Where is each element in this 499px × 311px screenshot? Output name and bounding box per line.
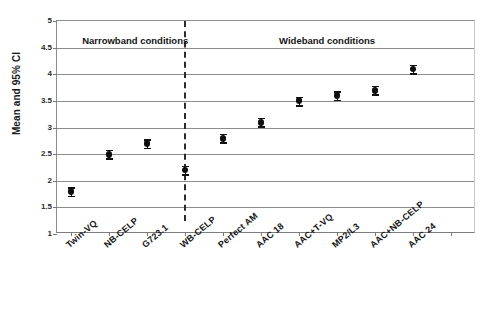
y-axis-tick-mark (53, 48, 57, 49)
y-axis-tick-mark (53, 21, 57, 22)
gridline (57, 181, 474, 182)
plot-area: 11.522.533.544.55 Narrowband conditionsW… (56, 20, 475, 233)
error-bar-cap-lower (372, 94, 380, 95)
y-axis-title: Mean and 95% CI (11, 34, 22, 154)
error-bar-cap-lower (106, 158, 114, 159)
data-point-marker (144, 140, 151, 147)
y-axis-tick-mark (53, 181, 57, 182)
y-axis-tick-mark (53, 101, 57, 102)
y-axis-tick-mark (53, 154, 57, 155)
data-point-marker (68, 188, 75, 195)
error-bar-cap-lower (182, 174, 190, 175)
y-axis-tick-label: 4.5 (26, 42, 57, 51)
gridline (57, 154, 474, 155)
gridline (57, 128, 474, 129)
chart-figure: Mean and 95% CI 11.522.533.544.55 Narrow… (0, 0, 499, 311)
y-axis-tick-label: 3 (26, 122, 57, 131)
y-axis-tick-label: 4 (26, 69, 57, 78)
data-point-marker (372, 87, 379, 94)
y-axis-tick-label: 2.5 (26, 149, 57, 158)
error-bar-cap-lower (144, 148, 152, 149)
y-axis-tick-mark (53, 128, 57, 129)
narrowband-region-label: Narrowband conditions (82, 35, 188, 46)
error-bar-cap-lower (68, 196, 76, 197)
x-axis-tick-mark (451, 232, 452, 236)
error-bar-cap-lower (258, 126, 266, 127)
y-axis-tick-mark (53, 74, 57, 75)
data-point-marker (296, 97, 303, 104)
y-axis-tick-label: 5 (26, 16, 57, 25)
error-bar-cap-lower (296, 105, 304, 106)
condition-divider-line (184, 21, 186, 221)
data-point-marker (220, 135, 227, 142)
data-point-marker (334, 92, 341, 99)
error-bar-cap-lower (220, 142, 228, 143)
data-point-marker (182, 167, 189, 174)
error-bar-cap-lower (410, 73, 418, 74)
y-axis-tick-mark (53, 207, 57, 208)
y-axis-tick-label: 1 (26, 229, 57, 238)
data-point-marker (410, 66, 417, 73)
gridline (57, 48, 474, 49)
error-bar-cap-lower (334, 100, 342, 101)
wideband-region-label: Wideband conditions (279, 35, 375, 46)
y-axis-tick-label: 1.5 (26, 202, 57, 211)
y-axis-tick-label: 2 (26, 175, 57, 184)
gridline (57, 101, 474, 102)
data-point-marker (258, 119, 265, 126)
y-axis-tick-label: 3.5 (26, 95, 57, 104)
data-point-marker (106, 151, 113, 158)
y-axis-tick-mark (53, 234, 57, 235)
